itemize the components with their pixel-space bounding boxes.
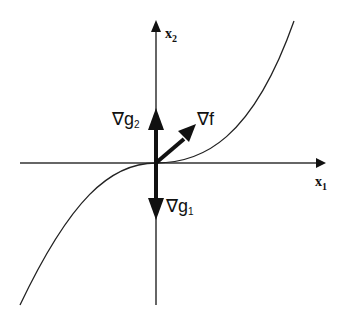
x2-axis-arrowhead-icon: [151, 20, 161, 32]
grad-f-vector: [157, 139, 184, 162]
grad-g2-arrowhead-icon: [148, 108, 164, 130]
x1-axis-arrowhead-icon: [316, 158, 326, 168]
grad-g1-arrowhead-icon: [148, 198, 164, 220]
x1-axis-label: x1: [315, 174, 327, 192]
grad-g1-label: ∇g1: [165, 196, 194, 217]
diagram-canvas: x2 x1 ∇f ∇g2 ∇g1: [0, 0, 346, 326]
x2-axis-label: x2: [165, 26, 177, 44]
grad-f-label: ∇f: [196, 109, 215, 129]
grad-g2-label: ∇g2: [111, 109, 140, 130]
